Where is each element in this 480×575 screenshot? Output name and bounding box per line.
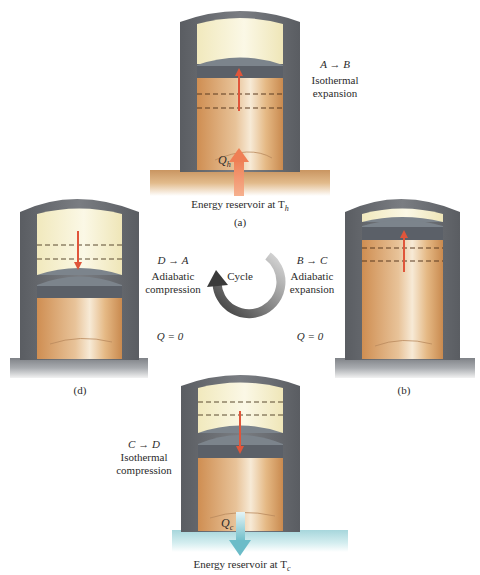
heat-in-arrow	[234, 160, 244, 196]
stage-d-label: D → A Adiabatic compression	[142, 254, 204, 296]
process-type-c: compression	[108, 464, 180, 477]
stage-d-cylinder	[10, 199, 148, 378]
stage-a-cylinder	[150, 11, 330, 196]
gas	[362, 240, 443, 359]
process-d: Adiabatic	[142, 270, 204, 283]
process-type-d: compression	[142, 283, 204, 296]
process-type-b: expansion	[284, 283, 340, 296]
process-c: Isothermal	[108, 451, 180, 464]
heat-text-b: Q = 0	[290, 330, 330, 343]
transition-d: D → A	[142, 254, 204, 267]
panel-label-b: (b)	[384, 384, 424, 397]
stage-b-label: B → C Adiabatic expansion	[284, 254, 340, 296]
cycle-label: Cycle	[218, 270, 262, 283]
cold-reservoir-label: Energy reservoir at Tc	[172, 558, 312, 575]
stage-a-label: A → B Isothermal expansion	[302, 58, 368, 100]
process-b: Adiabatic	[284, 270, 340, 283]
stage-c-label: C → D Isothermal compression	[108, 438, 180, 477]
panel-label-d: (d)	[60, 384, 100, 397]
heat-label-qh: Qh	[218, 154, 231, 171]
panel-label-a: (a)	[220, 216, 260, 229]
carnot-cycle-diagram	[0, 0, 480, 575]
transition-b: B → C	[284, 254, 340, 267]
transition-c: C → D	[108, 438, 180, 451]
hot-reservoir-label: Energy reservoir at Th	[170, 198, 310, 215]
gas	[37, 298, 122, 359]
process-a: Isothermal	[302, 74, 368, 87]
base-plate	[10, 358, 148, 378]
stage-b-cylinder	[335, 199, 475, 378]
process-type-a: expansion	[302, 87, 368, 100]
heat-out-arrow	[236, 512, 245, 542]
heat-label-qc: Qc	[221, 517, 233, 534]
base-plate	[335, 358, 475, 378]
cold-reservoir	[172, 530, 348, 552]
transition-a: A → B	[302, 58, 368, 71]
piston	[37, 285, 122, 298]
stage-c-cylinder	[172, 375, 348, 556]
heat-text-d: Q = 0	[150, 330, 190, 343]
circular-arrow-icon	[207, 256, 281, 314]
